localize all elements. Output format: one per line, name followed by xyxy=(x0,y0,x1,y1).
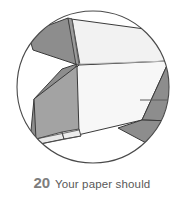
caption: 20 Your paper should xyxy=(0,174,184,198)
caption-text: Your paper should xyxy=(55,178,150,190)
origami-figure: 20 Your paper should xyxy=(0,0,184,198)
caption-step-number: 20 xyxy=(34,174,50,191)
origami-diagram xyxy=(0,0,184,176)
